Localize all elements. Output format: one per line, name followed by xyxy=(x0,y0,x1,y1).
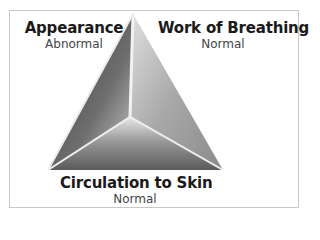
breathing-status: Normal xyxy=(158,37,288,52)
label-circulation: Circulation to Skin Normal xyxy=(60,175,210,207)
appearance-status: Abnormal xyxy=(22,37,126,52)
label-work-of-breathing: Work of Breathing Normal xyxy=(158,20,288,52)
label-appearance: Appearance Abnormal xyxy=(22,20,126,52)
circulation-title: Circulation to Skin xyxy=(60,175,210,192)
circulation-status: Normal xyxy=(60,192,210,207)
appearance-title: Appearance xyxy=(22,20,126,37)
breathing-title: Work of Breathing xyxy=(158,20,288,37)
